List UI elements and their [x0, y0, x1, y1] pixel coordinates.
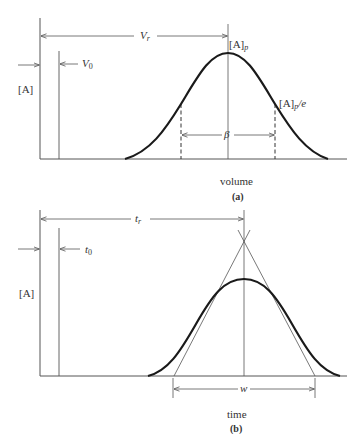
panel-b-tangent-right: [238, 230, 315, 376]
panel-a: [18, 18, 347, 159]
panel-a-beta-label: β: [224, 129, 229, 140]
panel-b-caption: (b): [230, 424, 242, 434]
panel-b: [18, 210, 347, 398]
panel-b-y-label: [A]: [19, 288, 34, 299]
panel-b-w-label: w: [240, 383, 247, 394]
panel-b-tangent-left: [174, 230, 250, 376]
chromatogram-figure: [0, 0, 364, 434]
panel-a-x-label: volume: [220, 176, 253, 187]
panel-b-t0-label: t0: [85, 244, 92, 257]
panel-a-v0-label: V0: [82, 58, 93, 71]
panel-b-tr-label: tr: [135, 213, 141, 226]
panel-a-vr-label: Vr: [140, 30, 150, 43]
panel-a-y-label: [A]: [18, 84, 33, 95]
panel-a-peak-e-label: [A]p/e: [279, 98, 306, 111]
panel-a-peak-label: [A]p: [229, 39, 248, 52]
panel-a-caption: (a): [232, 192, 244, 202]
panel-b-x-label: time: [227, 409, 247, 420]
